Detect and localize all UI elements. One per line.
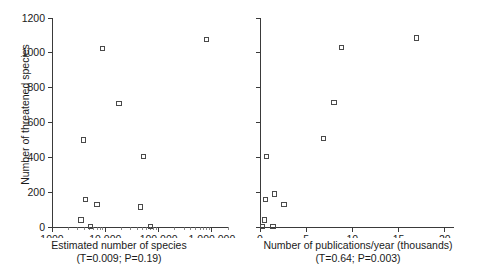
panel-left: 020040060080010001200100010 000100 0001 … xyxy=(0,0,238,275)
x-axis-title-right: Number of publications/year (thousands) … xyxy=(238,239,478,265)
data-point-marker xyxy=(263,197,267,201)
data-point-marker xyxy=(101,46,105,50)
x-axis-title-left-stats: (T=0.009; P=0.19) xyxy=(0,252,238,265)
x-axis-title-left-main: Estimated number of species xyxy=(51,239,186,251)
data-point-marker xyxy=(282,202,286,206)
data-point-marker xyxy=(339,46,343,50)
x-tick-label: 0 xyxy=(257,233,263,239)
x-tick-label: 10 xyxy=(347,233,359,239)
x-tick-label: 15 xyxy=(393,233,405,239)
data-point-marker xyxy=(141,154,145,158)
x-tick-label: 1000 xyxy=(40,233,64,239)
x-tick-label: 100 000 xyxy=(140,233,178,239)
data-point-marker xyxy=(261,224,265,228)
data-point-marker xyxy=(414,36,418,40)
y-tick-label: 0 xyxy=(39,221,45,233)
x-axis-title-right-stats: (T=0.64; P=0.003) xyxy=(238,252,478,265)
data-point-marker xyxy=(79,218,83,222)
data-point-marker xyxy=(95,202,99,206)
x-axis-title-right-main: Number of publications/year (thousands) xyxy=(263,239,452,251)
x-tick-label: 20 xyxy=(439,233,451,239)
data-point-marker xyxy=(273,192,277,196)
x-tick-label: 10 000 xyxy=(89,233,121,239)
x-tick-label: 5 xyxy=(303,233,309,239)
data-point-marker xyxy=(205,38,209,42)
x-axis-title-left: Estimated number of species (T=0.009; P=… xyxy=(0,239,238,265)
data-point-marker xyxy=(332,100,336,104)
scatter-figure: 020040060080010001200100010 000100 0001 … xyxy=(0,0,478,275)
data-point-marker xyxy=(138,205,142,209)
data-point-marker xyxy=(264,154,268,158)
data-point-marker xyxy=(81,138,85,142)
x-tick-label: 1 000 000 xyxy=(189,233,236,239)
data-point-marker xyxy=(117,101,121,105)
plot-area-left: 020040060080010001200100010 000100 0001 … xyxy=(0,0,238,238)
data-point-marker xyxy=(263,218,267,222)
data-point-marker xyxy=(322,136,326,140)
data-point-marker xyxy=(88,224,92,228)
y-axis-title-text: Number of threatened species xyxy=(19,44,31,185)
data-point-marker xyxy=(84,197,88,201)
data-point-marker xyxy=(271,224,275,228)
plot-area-right: 05101520 xyxy=(238,0,478,238)
y-axis-title: Number of threatened species xyxy=(19,15,32,215)
panel-right: 05101520 Number of publications/year (th… xyxy=(238,0,478,275)
